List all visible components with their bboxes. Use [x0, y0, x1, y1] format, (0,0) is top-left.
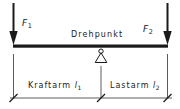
force-right-subscript: 2	[148, 28, 153, 36]
fulcrum	[95, 49, 107, 63]
left-arm-subscript: 1	[77, 84, 81, 91]
right-arm-label: Lastarm l2	[110, 81, 160, 91]
left-arm-text: Kraftarm	[28, 81, 71, 90]
pivot-label: Drehpunkt	[71, 30, 123, 39]
force-arrow-left-head	[9, 31, 17, 45]
lever-diagram: F1 F2 Drehpunkt Kraftarm l1 Lastarm l2	[0, 0, 180, 109]
fulcrum-triangle	[95, 53, 107, 63]
right-arm-text: Lastarm	[110, 81, 150, 90]
left-arm-label: Kraftarm l1	[28, 81, 81, 91]
force-arrow-right	[163, 3, 171, 45]
diagram-vector-layer	[0, 0, 180, 109]
force-left-label: F1	[22, 18, 32, 30]
force-arrow-right-head	[163, 31, 171, 45]
lever-beam	[13, 45, 168, 48]
force-left-subscript: 1	[27, 22, 32, 30]
force-arrow-left	[9, 3, 17, 45]
right-arm-subscript: 2	[155, 84, 159, 91]
force-right-label: F2	[143, 24, 153, 36]
